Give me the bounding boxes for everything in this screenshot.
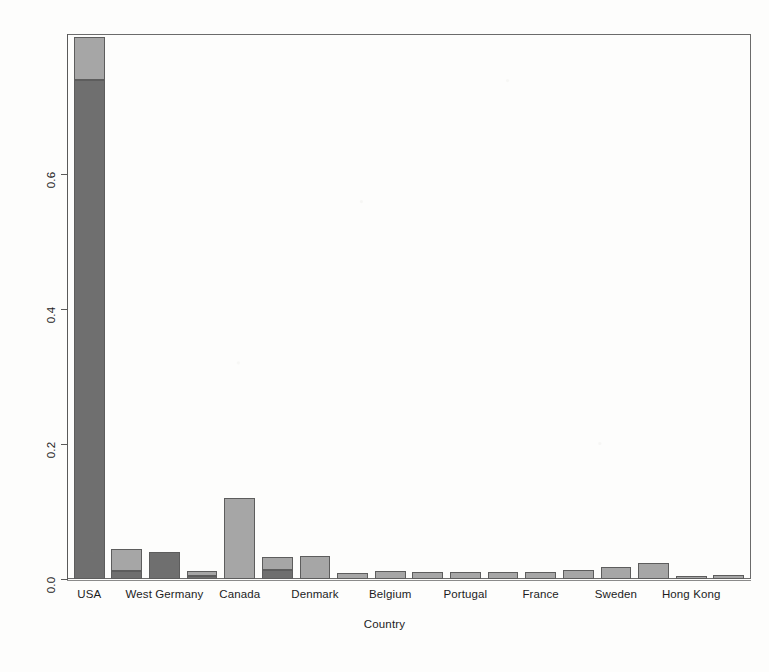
x-axis-tick-label: Denmark	[291, 588, 338, 600]
y-axis: 0.00.20.40.6	[60, 34, 68, 579]
bar[interactable]	[412, 34, 443, 579]
x-axis-tick-label: Canada	[219, 588, 260, 600]
bar-chart: 0.00.20.40.6 USAWest GermanyCanadaDenmar…	[0, 0, 769, 672]
y-axis-tick-label-text: 0.6	[45, 171, 57, 188]
bar[interactable]	[224, 34, 255, 579]
x-axis-line	[67, 580, 751, 581]
bar-segment	[676, 576, 707, 579]
x-axis-tick-label: Sweden	[595, 588, 637, 600]
x-axis-tick-label: Hong Kong	[662, 588, 720, 600]
y-axis-tick-label-text: 0.2	[45, 442, 57, 459]
bar[interactable]	[563, 34, 594, 579]
bar-segment	[224, 498, 255, 579]
x-axis-tick-label: France	[522, 588, 558, 600]
bar[interactable]	[713, 34, 744, 579]
y-axis-tick-label: 0.4	[51, 307, 63, 324]
bar[interactable]	[450, 34, 481, 579]
bar[interactable]	[375, 34, 406, 579]
bar-segment	[488, 572, 519, 579]
bar[interactable]	[149, 34, 180, 579]
bar[interactable]	[262, 34, 293, 579]
bar[interactable]	[111, 34, 142, 579]
bars-layer	[67, 34, 751, 579]
bar[interactable]	[74, 34, 105, 579]
x-axis-title: Country	[0, 618, 769, 630]
bar-segment	[149, 552, 180, 579]
y-axis-line	[67, 34, 68, 579]
bar-segment	[111, 571, 142, 579]
bar-segment	[713, 575, 744, 579]
bar-segment	[375, 571, 406, 579]
bar[interactable]	[601, 34, 632, 579]
y-axis-tick-label-text: 0.4	[45, 307, 57, 324]
bar-segment	[563, 570, 594, 579]
bar-segment	[450, 572, 481, 579]
bar[interactable]	[638, 34, 669, 579]
bar[interactable]	[488, 34, 519, 579]
x-axis-tick-label: West Germany	[126, 588, 204, 600]
x-axis-tick-label: Portugal	[444, 588, 488, 600]
y-axis-tick-label: 0.0	[51, 577, 63, 594]
bar[interactable]	[337, 34, 368, 579]
bar-segment	[187, 576, 218, 579]
bar-segment	[111, 549, 142, 571]
x-axis-tick-label: Belgium	[369, 588, 411, 600]
bar-segment	[601, 567, 632, 579]
y-axis-tick-label: 0.6	[51, 171, 63, 188]
bar-segment	[187, 571, 218, 576]
bar-segment	[525, 572, 556, 579]
bar[interactable]	[676, 34, 707, 579]
bar-segment	[262, 557, 293, 569]
y-axis-tick-label: 0.2	[51, 442, 63, 459]
bar-segment	[74, 37, 105, 80]
bar-segment	[337, 573, 368, 579]
bar-segment	[412, 572, 443, 579]
bar[interactable]	[525, 34, 556, 579]
x-axis-tick-label: USA	[77, 588, 101, 600]
bar-segment	[638, 563, 669, 579]
bar[interactable]	[187, 34, 218, 579]
bar-segment	[262, 570, 293, 579]
bar-segment	[300, 556, 331, 579]
y-axis-tick-label-text: 0.0	[45, 577, 57, 594]
bar-segment	[74, 80, 105, 579]
bar[interactable]	[300, 34, 331, 579]
